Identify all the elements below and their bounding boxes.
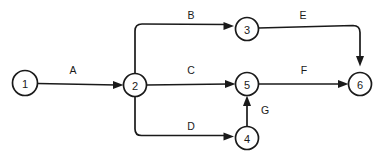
edge-d: D [135, 97, 234, 141]
edge-g-label: G [261, 104, 269, 116]
edge-a-label: A [69, 64, 76, 76]
node-3-label: 3 [244, 24, 250, 36]
edge-e-label: E [299, 9, 306, 21]
node-3[interactable]: 3 [236, 18, 259, 41]
node-4[interactable]: 4 [236, 127, 259, 150]
edge-b-line [135, 24, 227, 74]
edge-a: A [38, 64, 124, 89]
edge-e-line [259, 26, 361, 61]
node-6[interactable]: 6 [349, 73, 372, 96]
node-1[interactable]: 1 [13, 71, 38, 96]
edge-f: F [259, 64, 349, 88]
node-6-label: 6 [357, 79, 363, 91]
edge-d-line [135, 97, 227, 136]
edge-f-label: F [301, 64, 307, 76]
edge-d-label: D [187, 120, 195, 132]
edge-e: E [259, 9, 365, 67]
node-4-label: 4 [244, 133, 250, 145]
node-2[interactable]: 2 [124, 74, 147, 97]
edge-c-line [147, 84, 230, 85]
node-2-label: 2 [132, 80, 138, 92]
edge-a-arrowhead [113, 81, 124, 89]
edge-e-arrowhead [356, 56, 364, 67]
edge-b-label: B [187, 9, 194, 21]
edge-c-label: C [187, 64, 195, 76]
edge-d-arrowhead [224, 133, 235, 141]
node-1-label: 1 [22, 78, 28, 90]
edge-g-arrowhead [243, 96, 251, 107]
node-5-label: 5 [244, 79, 250, 91]
edge-a-line [38, 84, 118, 86]
edge-g: G [243, 96, 269, 127]
edge-b-arrowhead [224, 22, 235, 30]
node-5[interactable]: 5 [236, 73, 259, 96]
edge-c: C [147, 64, 236, 88]
diagram-canvas: A B C D E F [0, 0, 382, 160]
network-diagram: A B C D E F [0, 0, 382, 160]
edge-c-arrowhead [225, 80, 236, 88]
edge-f-arrowhead [338, 80, 349, 88]
edge-b: B [135, 9, 234, 74]
